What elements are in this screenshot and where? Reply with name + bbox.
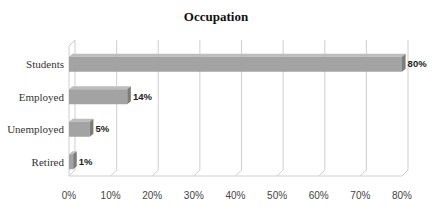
floor-line	[69, 170, 75, 176]
x-tick-label: 70%	[350, 190, 370, 201]
floor-line	[111, 170, 117, 176]
x-tick-label: 60%	[309, 190, 329, 201]
floor-line	[152, 170, 158, 176]
bar	[69, 89, 127, 104]
x-tick-label: 0%	[62, 190, 77, 201]
bar-side-face	[127, 86, 131, 104]
floor-line	[319, 170, 325, 176]
bar-side-face	[73, 151, 77, 169]
floor-line	[277, 170, 283, 176]
floor-line	[236, 170, 242, 176]
floor-line	[194, 170, 200, 176]
data-label: 14%	[133, 91, 153, 102]
bar	[69, 154, 73, 169]
bar-top-face	[69, 86, 131, 89]
bar-side-face	[402, 54, 406, 72]
x-tick-label: 50%	[267, 190, 287, 201]
x-tick-label: 10%	[101, 190, 121, 201]
category-label: Students	[26, 58, 64, 70]
x-tick-label: 30%	[184, 190, 204, 201]
bar-chart: 0%10%20%30%40%50%60%70%80%Students80%Emp…	[0, 0, 432, 217]
x-tick-label: 20%	[142, 190, 162, 201]
top-edge	[69, 40, 75, 46]
category-label: Employed	[19, 91, 65, 103]
category-label: Retired	[32, 156, 65, 168]
x-tick-label: 80%	[392, 190, 412, 201]
x-tick-label: 40%	[225, 190, 245, 201]
data-label: 80%	[408, 58, 428, 69]
bar-top-face	[69, 119, 93, 122]
data-label: 5%	[95, 123, 109, 134]
floor-line	[360, 170, 366, 176]
bar	[69, 122, 90, 137]
floor-line	[402, 170, 408, 176]
category-label: Unemployed	[7, 123, 64, 135]
bar-top-face	[69, 54, 406, 57]
data-label: 1%	[79, 156, 93, 167]
bar-side-face	[90, 119, 94, 137]
bar	[69, 57, 402, 72]
